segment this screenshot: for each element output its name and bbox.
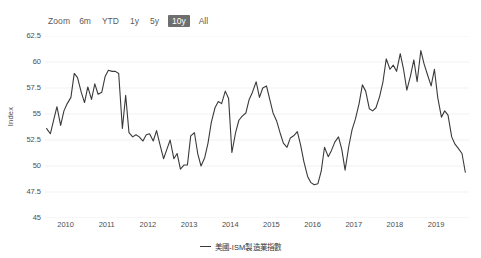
y-axis-tick-label: 45 <box>11 214 41 222</box>
zoom-range-selector: Zoom 6m YTD 1y 5y 10y All <box>48 15 210 27</box>
ism-manufacturing-index-chart: Zoom 6m YTD 1y 5y 10y All 4547.55052.555… <box>0 0 481 258</box>
x-axis-tick-label: 2010 <box>57 221 74 229</box>
x-axis-tick-label: 2019 <box>428 221 445 229</box>
zoom-button-6m[interactable]: 6m <box>77 16 93 27</box>
zoom-button-ytd[interactable]: YTD <box>100 16 121 27</box>
y-axis-tick-label: 62.5 <box>11 32 41 40</box>
x-axis-tick-label: 2018 <box>387 221 404 229</box>
zoom-button-10y[interactable]: 10y <box>168 15 190 27</box>
zoom-button-1y[interactable]: 1y <box>128 16 141 27</box>
y-axis-tick-label: 47.5 <box>11 188 41 196</box>
y-axis-tick-label: 55 <box>11 110 41 118</box>
zoom-button-5y[interactable]: 5y <box>148 16 161 27</box>
gridlines <box>45 36 469 218</box>
x-axis-tick-label: 2017 <box>345 221 362 229</box>
zoom-button-all[interactable]: All <box>197 16 210 27</box>
legend-series-label: 美國-ISM製造業指數 <box>215 241 281 252</box>
chart-plot-svg <box>45 36 469 218</box>
zoom-label: Zoom <box>48 16 70 26</box>
x-axis-tick-label: 2013 <box>181 221 198 229</box>
y-axis-tick-label: 52.5 <box>11 136 41 144</box>
x-axis-tick-label: 2014 <box>222 221 239 229</box>
x-axis-tick-label: 2015 <box>263 221 280 229</box>
y-axis-title: Index <box>6 95 15 139</box>
x-axis-tick-label: 2011 <box>99 221 115 229</box>
x-axis-tick-label: 2016 <box>304 221 321 229</box>
plot-area <box>45 36 469 218</box>
y-axis-tick-label: 60 <box>11 58 41 66</box>
series-line-ism-manufacturing <box>47 51 466 185</box>
legend-line-swatch <box>200 246 211 247</box>
y-axis-tick-label: 50 <box>11 162 41 170</box>
chart-legend: 美國-ISM製造業指數 <box>0 241 481 252</box>
x-axis-tick-label: 2012 <box>140 221 157 229</box>
y-axis-tick-label: 57.5 <box>11 84 41 92</box>
x-axis-tick-labels: 2010201120122013201420152016201720182019 <box>45 221 469 235</box>
